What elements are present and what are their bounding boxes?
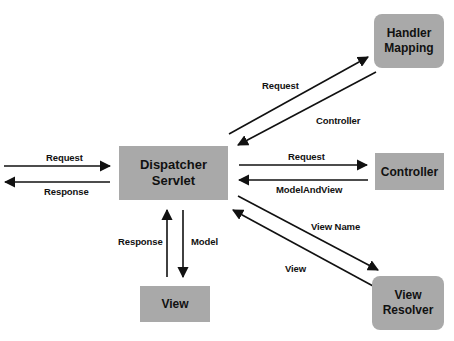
diagram-canvas: Dispatcher Servlet Handler Mapping Contr… (0, 0, 454, 341)
node-label-line2: Mapping (384, 41, 433, 56)
node-label-line1: View (383, 288, 434, 303)
node-view-resolver: View Resolver (372, 276, 444, 330)
node-label-line2: Resolver (383, 303, 434, 318)
edge-label-view-response: Response (118, 236, 163, 247)
node-label-line2: Servlet (140, 173, 207, 189)
node-label-line1: Dispatcher (140, 157, 207, 173)
node-label: Controller (381, 164, 438, 180)
node-label: View (161, 296, 188, 312)
edge-label-view: View (285, 263, 306, 274)
edge-label-hm-controller: Controller (316, 115, 360, 126)
edge-label-client-response: Response (44, 186, 89, 197)
node-dispatcher-servlet: Dispatcher Servlet (119, 146, 228, 200)
node-controller: Controller (375, 153, 444, 190)
arrow-to-view-resolver (238, 196, 378, 270)
node-label-line1: Handler (384, 26, 433, 41)
edge-label-view-name: View Name (311, 221, 360, 232)
arrow-from-handler-mapping (238, 72, 376, 145)
node-view: View (140, 286, 210, 322)
edge-label-client-request: Request (46, 152, 83, 163)
edge-label-modelandview: ModelAndView (276, 184, 342, 195)
edge-label-model: Model (191, 236, 218, 247)
edge-label-hm-request: Request (262, 80, 299, 91)
edge-label-controller-request: Request (288, 151, 325, 162)
node-handler-mapping: Handler Mapping (374, 14, 444, 68)
